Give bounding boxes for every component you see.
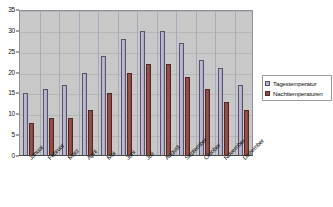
bar-day <box>101 56 106 156</box>
legend-label-day: Tagestemperatur <box>273 80 316 87</box>
bar-group <box>238 10 249 156</box>
bar-group <box>82 10 93 156</box>
bar-day <box>23 93 28 156</box>
y-tick-label: 25 <box>8 48 15 55</box>
bar-night <box>107 93 112 156</box>
y-tick-label: 15 <box>8 90 15 97</box>
bar-group <box>160 10 171 156</box>
y-tick-label: 10 <box>8 111 15 118</box>
legend-label-night: Nachttemperaturen <box>273 90 323 97</box>
bar-group <box>23 10 34 156</box>
bar-day <box>43 89 48 156</box>
bar-group <box>121 10 132 156</box>
bar-night <box>205 89 210 156</box>
y-tick-label: 20 <box>8 69 15 76</box>
y-tick-label: 5 <box>12 132 15 139</box>
legend-item-tagestemperatur: Tagestemperatur <box>265 78 329 88</box>
bar-group <box>140 10 151 156</box>
bars-layer <box>19 10 253 156</box>
legend-swatch-icon-day <box>265 81 270 86</box>
y-tick-label: 30 <box>8 28 15 35</box>
y-tick-label: 35 <box>8 7 15 14</box>
bar-group <box>43 10 54 156</box>
y-tick-label: 0 <box>12 153 15 160</box>
bar-day <box>179 43 184 156</box>
bar-night <box>166 64 171 156</box>
y-axis: 05101520253035 <box>0 0 19 160</box>
bar-day <box>121 39 126 156</box>
bar-day <box>82 73 87 156</box>
bar-night <box>146 64 151 156</box>
bar-group <box>179 10 190 156</box>
bar-day <box>140 31 145 156</box>
legend-swatch-icon-night <box>265 91 270 96</box>
bar-group <box>62 10 73 156</box>
x-axis-labels: JanuarFebruarMärzAprilMaiJuniJuliAugustS… <box>19 156 279 206</box>
bar-night <box>185 77 190 156</box>
bar-day <box>160 31 165 156</box>
chart-legend: Tagestemperatur Nachttemperaturen <box>262 75 332 101</box>
temperature-bar-chart: 05101520253035 JanuarFebruarMärzAprilMai… <box>0 0 333 207</box>
bar-group <box>101 10 112 156</box>
legend-item-nachttemperaturen: Nachttemperaturen <box>265 88 329 98</box>
bar-night <box>127 73 132 156</box>
bar-group <box>199 10 210 156</box>
bar-group <box>218 10 229 156</box>
